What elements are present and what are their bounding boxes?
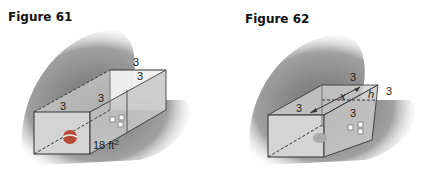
prism-diagram: 3 3 3 x h 3 [210, 0, 421, 173]
ball-icon [63, 130, 77, 144]
label-front-top: 3 [296, 102, 302, 114]
toy-block-icon [118, 122, 123, 127]
figure-61: Figure 61 3 3 3 [0, 0, 210, 173]
label-top-back: 3 [350, 71, 356, 83]
toy-block-icon [119, 115, 124, 120]
label-right-mid: 3 [350, 107, 356, 119]
toy-block-icon [110, 117, 115, 122]
label-top-diag: 3 [137, 70, 143, 82]
label-front-top: 3 [60, 100, 66, 112]
label-side: 3 [386, 85, 392, 97]
figure-62: Figure 62 3 3 3 x h [210, 0, 421, 173]
label-h: h [368, 88, 374, 100]
label-top-back: 3 [133, 56, 139, 68]
prism-diagram: 3 3 3 3 18 ft2 [0, 0, 210, 173]
label-x: x [339, 90, 346, 102]
label-front-right-top: 3 [98, 92, 104, 104]
